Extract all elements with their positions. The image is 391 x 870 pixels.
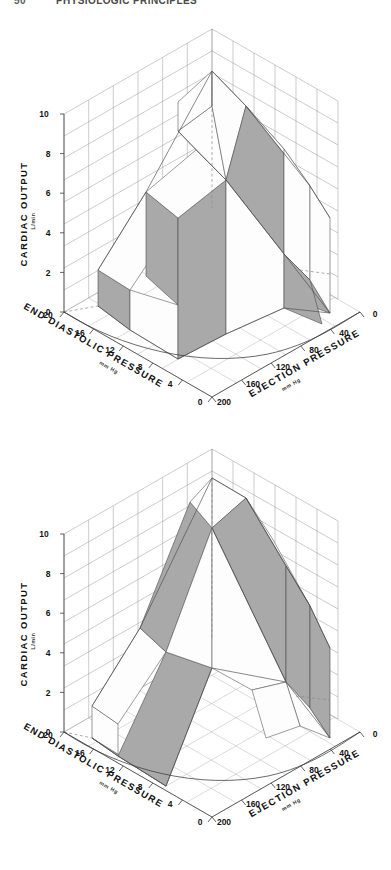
- plot-area-upper: 10 8 6 4 2 0 CARDIAC OUTPUT L/min: [0, 18, 391, 428]
- x-tick-0: 0: [198, 397, 203, 407]
- surface-mesh-upper: [98, 71, 330, 359]
- plot-area-lower: 10 8 6 4 2 0 CARDIAC OUTPUT L/min: [0, 438, 391, 848]
- surface-mesh-lower: [92, 478, 330, 786]
- cardiac-output-surface-plot-lower: 10 8 6 4 2 0 CARDIAC OUTPUT L/min: [0, 438, 391, 848]
- figure-page: 50 PHYSIOLOGIC PRINCIPLES: [0, 0, 391, 870]
- z-tick-6: 6: [46, 188, 51, 198]
- z-tick-8: 8: [46, 149, 51, 159]
- z-tick-10-lower: 10: [39, 529, 49, 539]
- z-axis-units-upper: L/min: [30, 213, 36, 230]
- z-tick-2-lower: 2: [46, 688, 51, 698]
- y-tick-200-lower: 200: [217, 817, 231, 827]
- x-tick-0-lower: 0: [198, 817, 203, 827]
- running-head-title: PHYSIOLOGIC PRINCIPLES: [56, 0, 197, 6]
- z-axis-title-upper: CARDIAC OUTPUT: [18, 161, 29, 266]
- y-axis-title-lower: EJECTION PRESSURE: [247, 747, 362, 819]
- z-axis-units-lower: L/min: [30, 633, 36, 650]
- z-tick-2: 2: [46, 268, 51, 278]
- y-axis-lower: 0 40 80 120 160 200 EJECTION PRESSURE mm…: [212, 729, 378, 827]
- cardiac-output-surface-plot-upper: 10 8 6 4 2 0 CARDIAC OUTPUT L/min: [0, 18, 391, 428]
- x-tick-4: 4: [168, 379, 173, 389]
- z-axis-title-lower: CARDIAC OUTPUT: [18, 581, 29, 686]
- z-tick-8-lower: 8: [46, 569, 51, 579]
- y-tick-200: 200: [217, 397, 231, 407]
- z-tick-10: 10: [39, 109, 49, 119]
- z-tick-4: 4: [46, 228, 51, 238]
- z-tick-6-lower: 6: [46, 608, 51, 618]
- z-tick-4-lower: 4: [46, 648, 51, 658]
- y-tick-0-lower: 0: [373, 729, 378, 739]
- z-axis-upper: 10 8 6 4 2 0 CARDIAC OUTPUT L/min: [18, 109, 64, 317]
- x-tick-4-lower: 4: [168, 799, 173, 809]
- y-tick-0: 0: [373, 309, 378, 319]
- z-axis-lower: 10 8 6 4 2 0 CARDIAC OUTPUT L/min: [18, 529, 64, 737]
- page-folio: 50: [14, 0, 26, 6]
- y-axis-title-upper: EJECTION PRESSURE: [247, 327, 362, 399]
- running-head: 50 PHYSIOLOGIC PRINCIPLES: [0, 0, 391, 12]
